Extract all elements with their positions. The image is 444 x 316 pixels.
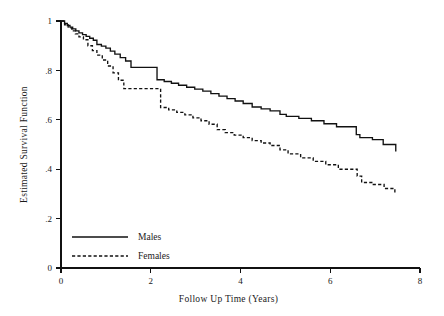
y-tick-label: 1 — [48, 16, 53, 26]
x-tick-label: 2 — [149, 276, 154, 286]
legend-label-males: Males — [138, 232, 162, 242]
x-tick-label: 8 — [418, 276, 423, 286]
survival-curve-males — [61, 21, 396, 151]
y-tick-label: .4 — [45, 164, 52, 174]
survival-plot-page: 024680.2.4.6.81Follow Up Time (Years)Est… — [0, 0, 444, 316]
y-tick-label: 0 — [48, 263, 53, 273]
survival-curve-females — [61, 21, 395, 193]
x-tick-label: 4 — [238, 276, 243, 286]
x-tick-label: 0 — [59, 276, 64, 286]
x-tick-label: 6 — [328, 276, 333, 286]
x-axis-title: Follow Up Time (Years) — [179, 294, 278, 305]
y-tick-label: .6 — [45, 115, 52, 125]
survival-chart: 024680.2.4.6.81Follow Up Time (Years)Est… — [0, 0, 444, 316]
y-axis-title: Estimated Survival Function — [19, 86, 29, 203]
y-tick-label: .2 — [45, 214, 52, 224]
legend-label-females: Females — [138, 251, 170, 261]
y-tick-label: .8 — [45, 66, 52, 76]
